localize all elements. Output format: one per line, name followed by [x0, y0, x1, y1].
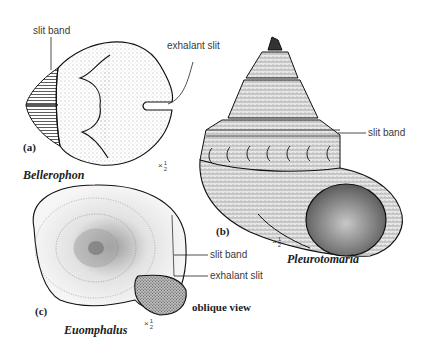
scale-c-prefix: ×: [144, 319, 149, 328]
scale-b-fraction: 12: [278, 236, 281, 248]
panel-label-c: (c): [35, 305, 47, 317]
scale-a-fraction: 12: [164, 160, 167, 172]
scale-c: ×12: [144, 318, 153, 330]
scale-b: ×12: [272, 236, 281, 248]
taxon-bellerophon: Bellerophon: [23, 168, 84, 183]
euomphalus-exhalant-slit-label: exhalant slit: [210, 270, 263, 281]
panel-label-b: (b): [216, 225, 229, 237]
bellerophon-slit-band-label: slit band: [33, 25, 70, 36]
oblique-view-label: oblique view: [192, 301, 251, 313]
pleurotomaria-slit-band-label: slit band: [368, 127, 405, 138]
panel-label-a: (a): [23, 141, 36, 153]
euomphalus-slit-band-label: slit band: [210, 249, 247, 260]
taxon-pleurotomaria: Pleurotomaria: [287, 252, 359, 267]
taxon-euomphalus: Euomphalus: [64, 323, 127, 338]
scale-c-fraction: 12: [150, 318, 153, 330]
scale-a-prefix: ×: [158, 161, 163, 170]
bellerophon-exhalant-slit-label: exhalant slit: [167, 40, 220, 51]
scale-a: ×12: [158, 160, 167, 172]
scale-b-prefix: ×: [272, 237, 277, 246]
